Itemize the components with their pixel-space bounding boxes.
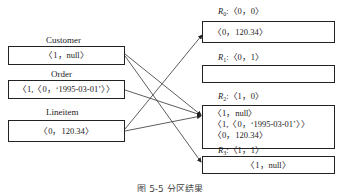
tuple-text: 〈1,〈0，‘1995-03-01’〉〉: [18, 84, 115, 95]
partition-tuple: 〈1，null〉: [246, 160, 290, 171]
table-box-lineitem: 〈0，120.34〉: [8, 120, 125, 142]
table-label-order: Order: [51, 69, 72, 79]
partition-key: :〈0，0〉: [226, 6, 264, 16]
edge-order-r2: [125, 90, 201, 115]
table-label-lineitem: Lineitem: [46, 107, 79, 117]
partition-label-r0: R0:〈0，0〉: [218, 6, 264, 19]
edge-lineitem-r2: [125, 116, 201, 131]
partition-key: :〈1，1〉: [226, 145, 264, 155]
edge-customer-r3: [125, 56, 201, 162]
partition-label-r1: R1:〈0，1〉: [218, 52, 264, 65]
partition-label-r2: R2:〈1，0〉: [218, 91, 264, 104]
edge-lineitem-r0: [125, 35, 202, 129]
tuple-text: 〈1，null〉: [44, 50, 88, 61]
partition-tuple: 〈1，null〉: [203, 108, 334, 119]
partition-box-r2: 〈1，null〉 〈1,〈0，‘1995-03-01’〉〉 〈0，120.34〉: [202, 105, 335, 149]
partition-box-r0: 〈0，120.34〉: [202, 21, 335, 43]
table-box-order: 〈1,〈0，‘1995-03-01’〉〉: [8, 80, 125, 99]
figure-caption: 图 5-5 分区结果: [0, 184, 340, 192]
partition-tuple: 〈0，120.34〉: [203, 27, 334, 38]
partition-box-r1: [202, 65, 335, 83]
partition-tuple: 〈1,〈0，‘1995-03-01’〉〉: [203, 119, 334, 130]
partition-tuple: 〈0，120.34〉: [203, 130, 334, 141]
partition-key: :〈1，0〉: [226, 91, 264, 101]
partition-box-r3: 〈1，null〉: [202, 156, 335, 174]
partition-key: :〈0，1〉: [226, 52, 264, 62]
table-box-customer: 〈1，null〉: [8, 46, 125, 65]
tuple-text: 〈0，120.34〉: [39, 126, 94, 137]
edge-customer-r2: [125, 54, 201, 115]
table-label-customer: Customer: [46, 35, 81, 45]
